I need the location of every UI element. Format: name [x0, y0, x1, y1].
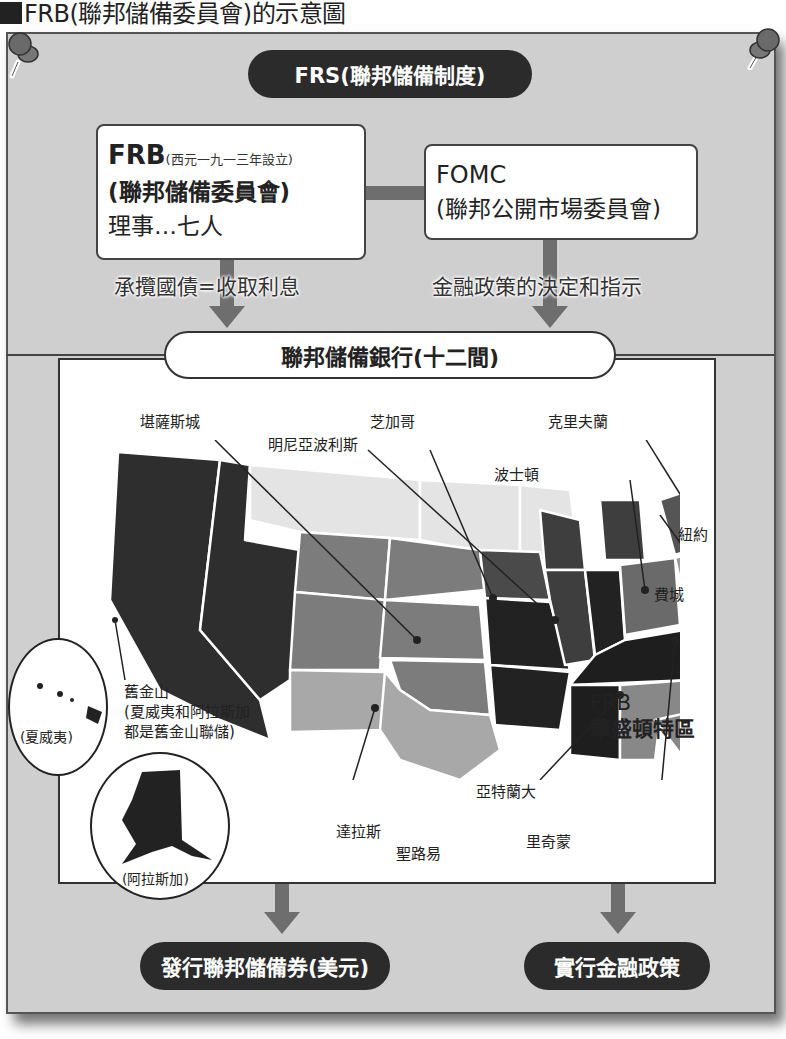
city-label-chicago: 芝加哥	[370, 410, 415, 431]
output-pill-left: 發行聯邦儲備券(美元)	[140, 942, 390, 990]
flow-label-left: 承攬國債=收取利息	[114, 270, 300, 300]
fomc-box: FOMC (聯邦公開市場委員會)	[424, 144, 698, 240]
frb-box: FRB(西元一九一三年設立) (聯邦儲備委員會) 理事…七人	[96, 124, 366, 260]
connector-line	[364, 186, 426, 200]
arrow-shaft	[611, 884, 625, 914]
page-title: FRB(聯邦儲備委員會)的示意圖	[0, 0, 346, 29]
frs-pill: FRS(聯邦儲備制度)	[248, 50, 532, 98]
arrow-down-icon	[532, 306, 568, 328]
city-label-kansas-city: 堪薩斯城	[140, 410, 200, 431]
city-label-new-york: 紐約	[678, 523, 708, 544]
alaska-inset: (阿拉斯加)	[90, 752, 230, 900]
hawaii-label: (夏威夷)	[20, 726, 73, 746]
city-label-san-francisco: 舊金山	[124, 680, 169, 701]
city-label-boston: 波士頓	[494, 463, 539, 484]
arrow-down-icon	[600, 912, 636, 934]
arrow-down-icon	[209, 306, 245, 328]
alaska-map	[92, 760, 228, 870]
city-label-atlanta: 亞特蘭大	[476, 780, 536, 801]
city-label-richmond: 里奇蒙	[526, 830, 571, 851]
flow-label-right: 金融政策的決定和指示	[432, 270, 642, 300]
sf-note-line1: (夏威夷和阿拉斯加	[124, 700, 250, 721]
arrow-down-icon	[264, 912, 300, 934]
city-label-washington: 華盛頓特區	[590, 716, 695, 742]
hawaii-inset: (夏威夷)	[8, 638, 108, 776]
bank-pill: 聯邦儲備銀行(十二間)	[164, 331, 616, 379]
city-label-minneapolis: 明尼亞波利斯	[268, 433, 358, 454]
city-label-dallas: 達拉斯	[336, 820, 381, 841]
pushpin-icon	[4, 32, 48, 82]
arrow-shaft	[275, 884, 289, 914]
sf-note-line2: 都是舊金山聯儲)	[124, 720, 235, 741]
city-label-cleveland: 克里夫蘭	[548, 410, 608, 431]
output-pill-right: 實行金融政策	[524, 942, 710, 990]
city-label-philadelphia: 費城	[654, 583, 684, 604]
pushpin-icon	[740, 26, 784, 76]
city-label-frb: FRB	[590, 690, 631, 716]
alaska-label: (阿拉斯加)	[122, 868, 189, 888]
square-bullet-icon	[0, 2, 22, 24]
city-label-st-louis: 聖路易	[396, 842, 441, 863]
